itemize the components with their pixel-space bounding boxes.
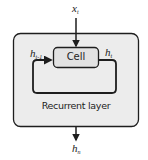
rnn-diagram (0, 0, 148, 160)
input-label: xt (72, 3, 79, 15)
state-label: ht (105, 47, 112, 59)
cell-label: Cell (53, 50, 99, 64)
output-label: hn (72, 143, 81, 155)
recurrent-layer-label: Recurrent layer (13, 100, 139, 111)
prev-state-label: ht-1 (30, 48, 42, 60)
